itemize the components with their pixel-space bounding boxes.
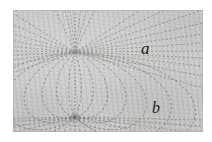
radiating-line bbox=[13, 10, 75, 52]
radiating-line bbox=[75, 10, 89, 52]
radiating-line bbox=[63, 10, 75, 52]
radiating-line bbox=[13, 16, 75, 52]
figure-root: a b bbox=[0, 0, 212, 142]
radiating-line bbox=[75, 10, 203, 52]
radiating-line bbox=[75, 51, 203, 52]
radiating-line bbox=[27, 10, 75, 52]
field-region-label-a: a bbox=[141, 40, 150, 57]
dipole-loop-line bbox=[75, 52, 108, 119]
field-lines-canvas bbox=[13, 10, 203, 132]
radiating-line bbox=[75, 10, 103, 52]
field-diagram-plate: a b bbox=[13, 10, 203, 132]
lower-pole-marker bbox=[70, 114, 80, 120]
radiating-field-lines-group bbox=[13, 10, 203, 92]
lower-fan-line bbox=[13, 117, 75, 132]
strata-line bbox=[13, 60, 203, 67]
dipole-loop-line bbox=[42, 52, 75, 119]
dipole-loop-line bbox=[69, 52, 75, 117]
radiating-line bbox=[13, 52, 75, 78]
strata-line bbox=[13, 120, 203, 127]
dipole-loop-line bbox=[75, 52, 171, 132]
radiating-line bbox=[13, 30, 75, 52]
radiating-line bbox=[13, 52, 75, 92]
radiating-line bbox=[75, 43, 203, 52]
dipole-loop-line bbox=[75, 52, 81, 117]
upper-pole-marker bbox=[70, 49, 80, 55]
radiating-line bbox=[75, 10, 123, 52]
lower-fan-line bbox=[75, 117, 203, 120]
radiating-line bbox=[13, 10, 75, 52]
field-region-label-b: b bbox=[152, 100, 160, 116]
plate-border bbox=[13, 10, 202, 131]
